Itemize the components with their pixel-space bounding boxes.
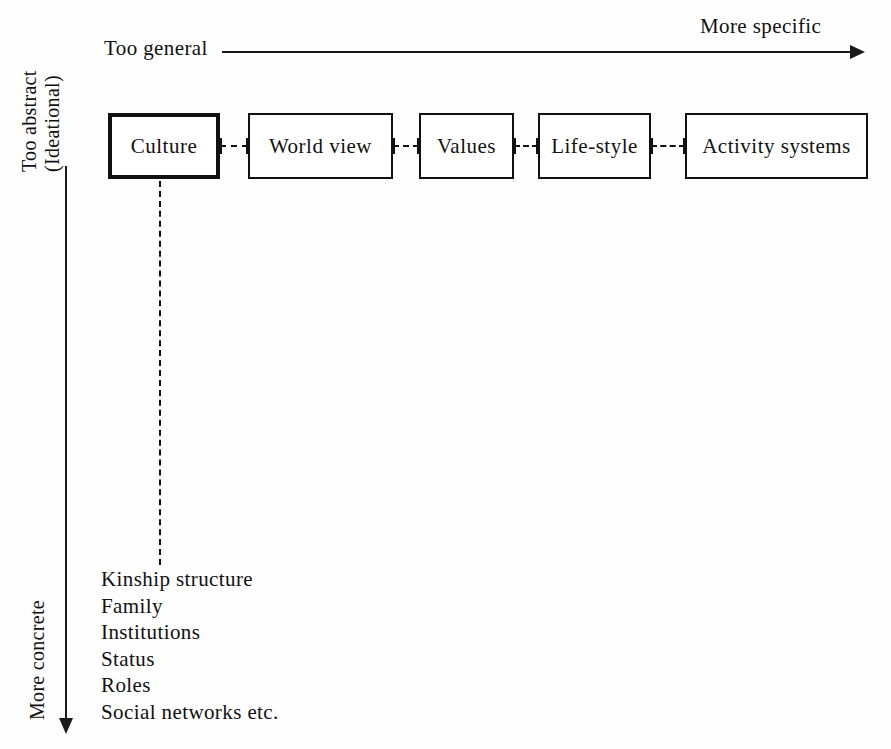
diagram-canvas: Too general More specific Too abstract (… bbox=[0, 0, 891, 749]
vertical-axis-arrow-icon bbox=[59, 718, 73, 734]
concept-box-label: Activity systems bbox=[702, 134, 851, 159]
concept-box-culture[interactable]: Culture bbox=[108, 113, 220, 179]
connector-stub bbox=[683, 138, 685, 154]
concept-box-activity-systems[interactable]: Activity systems bbox=[685, 113, 868, 179]
vertical-axis-top-label-secondary: (Ideational) bbox=[41, 75, 64, 172]
connector-world-view-values bbox=[393, 145, 419, 149]
list-item: Roles bbox=[101, 672, 279, 699]
culture-detail-drop-line bbox=[159, 181, 161, 565]
connector-stub bbox=[246, 138, 248, 154]
connector-stub bbox=[536, 138, 538, 154]
concept-box-label: World view bbox=[269, 134, 372, 159]
vertical-axis-top-label-primary: Too abstract bbox=[18, 70, 41, 172]
connector-life-style-activity-systems bbox=[651, 145, 685, 149]
list-item: Social networks etc. bbox=[101, 699, 279, 726]
horizontal-axis-arrow-icon bbox=[850, 45, 865, 59]
concept-box-values[interactable]: Values bbox=[419, 113, 514, 179]
horizontal-axis-start-label: Too general bbox=[104, 36, 208, 61]
concept-box-life-style[interactable]: Life-style bbox=[538, 113, 651, 179]
connector-stub bbox=[417, 138, 419, 154]
horizontal-axis-line bbox=[222, 51, 852, 53]
connector-culture-world-view bbox=[220, 145, 248, 149]
connector-values-life-style bbox=[514, 145, 538, 149]
concept-box-label: Life-style bbox=[551, 134, 638, 159]
culture-detail-list: Kinship structure Family Institutions St… bbox=[101, 566, 279, 725]
list-item: Status bbox=[101, 646, 279, 673]
list-item: Kinship structure bbox=[101, 566, 279, 593]
vertical-axis-line bbox=[65, 166, 67, 722]
vertical-axis-bottom-label: More concrete bbox=[26, 600, 49, 720]
list-item: Family bbox=[101, 593, 279, 620]
connector-stub bbox=[514, 138, 516, 154]
connector-stub bbox=[393, 138, 395, 154]
concept-box-label: Values bbox=[437, 134, 496, 159]
connector-stub bbox=[220, 138, 222, 154]
concept-box-label: Culture bbox=[131, 134, 198, 159]
list-item: Institutions bbox=[101, 619, 279, 646]
connector-stub bbox=[651, 138, 653, 154]
concept-box-world-view[interactable]: World view bbox=[248, 113, 393, 179]
horizontal-axis-end-label: More specific bbox=[700, 14, 821, 39]
